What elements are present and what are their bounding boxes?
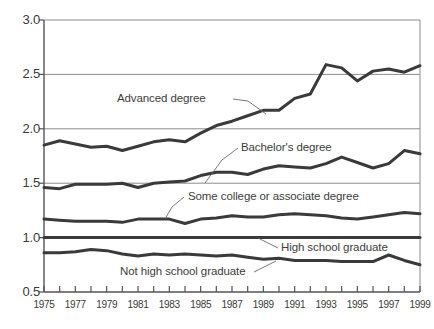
leader-line-high-school <box>258 238 278 248</box>
x-tick-label: 1989 <box>246 299 280 310</box>
y-tick-label-wrap: 1.5 <box>0 175 40 191</box>
y-tick-label: 3.0 <box>6 12 40 27</box>
x-tick-label: 1999 <box>403 299 434 310</box>
leader-line-bachelors <box>205 148 238 183</box>
y-tick-label-wrap: 1.0 <box>0 230 40 246</box>
leader-line-not-high-school <box>254 261 276 272</box>
x-tick-label: 1985 <box>184 299 218 310</box>
series-label-not-high-school-graduate: Not high school graduate <box>120 265 245 277</box>
series-line-some-college-or-associate-degree <box>44 213 420 224</box>
x-tick-label: 1979 <box>90 299 124 310</box>
x-tick-marks <box>44 286 420 292</box>
series-label-high-school-graduate: High school graduate <box>281 241 388 253</box>
x-tick-label: 1987 <box>215 299 249 310</box>
series-paths <box>44 65 420 265</box>
y-tick-marks <box>39 20 44 292</box>
series-line-advanced-degree <box>44 65 420 151</box>
y-tick-label: 2.5 <box>6 66 40 81</box>
x-tick-label: 1981 <box>121 299 155 310</box>
series-label-bachelors-degree: Bachelor's degree <box>241 141 332 153</box>
line-chart: 3.02.52.01.51.00.5 197519771979198119831… <box>0 0 434 329</box>
x-tick-label: 1991 <box>278 299 312 310</box>
plot-area <box>0 0 434 329</box>
x-tick-label: 1975 <box>27 299 61 310</box>
y-tick-label: 0.5 <box>6 284 40 299</box>
y-tick-label-wrap: 2.5 <box>0 66 40 82</box>
y-tick-label: 1.5 <box>6 175 40 190</box>
grid-lines <box>44 74 420 237</box>
y-tick-label-wrap: 3.0 <box>0 12 40 28</box>
y-tick-label: 1.0 <box>6 230 40 245</box>
series-label-some-college: Some college or associate degree <box>188 190 359 202</box>
series-label-advanced-degree: Advanced degree <box>117 92 206 104</box>
y-tick-label-wrap: 2.0 <box>0 121 40 137</box>
y-tick-label: 2.0 <box>6 121 40 136</box>
y-tick-label-wrap: 0.5 <box>0 284 40 300</box>
x-tick-label: 1995 <box>340 299 374 310</box>
x-tick-label: 1997 <box>372 299 406 310</box>
leader-line-some-college <box>165 197 184 219</box>
x-tick-label: 1993 <box>309 299 343 310</box>
x-tick-label: 1983 <box>152 299 186 310</box>
x-tick-label: 1977 <box>58 299 92 310</box>
